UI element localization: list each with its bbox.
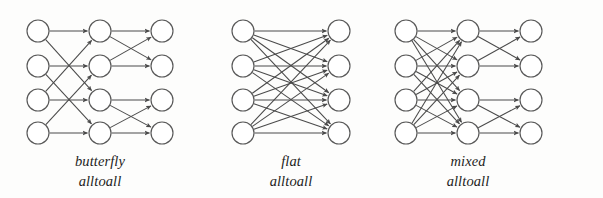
node-butterfly-c1-r3 (89, 122, 111, 144)
figure-container: butterflyalltoallflatalltoallmixedalltoa… (0, 0, 603, 198)
caption-flat-line2: alltoall (270, 173, 313, 189)
edge-group-mixed (412, 31, 520, 133)
node-mixed-c1-r1 (457, 55, 479, 77)
node-flat-c1-r3 (328, 122, 350, 144)
node-butterfly-c1-r1 (89, 55, 111, 77)
panel-flat: flatalltoall (232, 20, 350, 189)
node-mixed-c2-r1 (520, 55, 542, 77)
node-mixed-c2-r2 (520, 89, 542, 111)
caption-mixed-line2: alltoall (447, 173, 490, 189)
node-mixed-c2-r0 (520, 20, 542, 42)
node-mixed-c0-r2 (395, 89, 417, 111)
node-flat-c1-r2 (328, 89, 350, 111)
node-group-butterfly (27, 20, 173, 144)
node-butterfly-c2-r3 (151, 122, 173, 144)
node-mixed-c1-r2 (457, 89, 479, 111)
node-butterfly-c1-r0 (89, 20, 111, 42)
caption-butterfly-line1: butterfly (75, 153, 125, 169)
caption-flat-line1: flat (281, 153, 302, 169)
node-mixed-c1-r0 (457, 20, 479, 42)
node-flat-c0-r3 (232, 122, 254, 144)
node-mixed-c1-r3 (457, 122, 479, 144)
edge-group-flat (251, 31, 331, 133)
node-mixed-c0-r3 (395, 122, 417, 144)
node-flat-c0-r2 (232, 89, 254, 111)
node-butterfly-c1-r2 (89, 89, 111, 111)
panel-mixed: mixedalltoall (395, 20, 542, 189)
panel-butterfly: butterflyalltoall (27, 20, 173, 189)
node-mixed-c2-r3 (520, 122, 542, 144)
node-butterfly-c0-r0 (27, 20, 49, 42)
node-flat-c1-r0 (328, 20, 350, 42)
node-flat-c0-r0 (232, 20, 254, 42)
node-group-mixed (395, 20, 542, 144)
node-butterfly-c2-r1 (151, 55, 173, 77)
node-flat-c1-r1 (328, 55, 350, 77)
node-butterfly-c0-r3 (27, 122, 49, 144)
node-butterfly-c0-r1 (27, 55, 49, 77)
caption-mixed-line1: mixed (450, 153, 486, 169)
network-topology-diagram: butterflyalltoallflatalltoallmixedalltoa… (0, 0, 603, 198)
edge-group-butterfly (46, 31, 151, 133)
node-flat-c0-r1 (232, 55, 254, 77)
node-butterfly-c2-r0 (151, 20, 173, 42)
node-mixed-c0-r1 (395, 55, 417, 77)
caption-butterfly-line2: alltoall (79, 173, 122, 189)
node-butterfly-c2-r2 (151, 89, 173, 111)
node-butterfly-c0-r2 (27, 89, 49, 111)
node-mixed-c0-r0 (395, 20, 417, 42)
